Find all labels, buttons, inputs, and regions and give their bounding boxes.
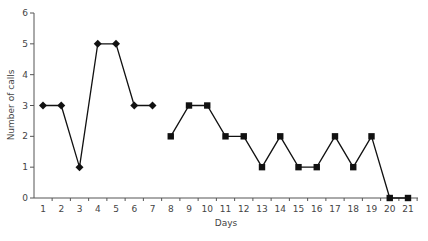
y-axis-title: Number of calls bbox=[6, 69, 16, 140]
x-tick-label: 6 bbox=[131, 204, 137, 214]
x-tick-label: 17 bbox=[329, 204, 340, 214]
line-chart: 0123456 12345678910111213141516171819202… bbox=[0, 0, 428, 241]
square-marker bbox=[168, 133, 174, 139]
x-tick-label: 14 bbox=[275, 204, 287, 214]
x-tick-label: 15 bbox=[293, 204, 304, 214]
square-marker bbox=[186, 102, 192, 108]
y-tick-label: 5 bbox=[22, 39, 28, 49]
y-axis: 0123456 bbox=[22, 8, 34, 203]
diamond-marker bbox=[57, 102, 65, 110]
square-marker bbox=[387, 195, 393, 201]
x-tick-label: 4 bbox=[95, 204, 101, 214]
series-1 bbox=[39, 40, 157, 171]
y-tick-label: 4 bbox=[22, 70, 28, 80]
series-line bbox=[171, 106, 408, 199]
square-marker bbox=[350, 164, 356, 170]
x-tick-label: 9 bbox=[186, 204, 192, 214]
y-tick-label: 3 bbox=[22, 101, 28, 111]
x-axis-title: Days bbox=[215, 218, 238, 228]
square-marker bbox=[332, 133, 338, 139]
square-marker bbox=[295, 164, 301, 170]
x-tick-label: 10 bbox=[202, 204, 214, 214]
x-tick-label: 18 bbox=[348, 204, 360, 214]
x-tick-label: 5 bbox=[113, 204, 119, 214]
square-marker bbox=[314, 164, 320, 170]
x-tick-label: 7 bbox=[150, 204, 156, 214]
x-tick-label: 3 bbox=[77, 204, 83, 214]
x-tick-label: 2 bbox=[58, 204, 64, 214]
square-marker bbox=[259, 164, 265, 170]
x-tick-label: 19 bbox=[366, 204, 378, 214]
x-tick-label: 20 bbox=[384, 204, 396, 214]
series-2 bbox=[168, 102, 412, 201]
x-tick-label: 1 bbox=[40, 204, 46, 214]
square-marker bbox=[277, 133, 283, 139]
diamond-marker bbox=[39, 102, 47, 110]
x-tick-label: 11 bbox=[220, 204, 231, 214]
x-tick-label: 16 bbox=[311, 204, 323, 214]
diamond-marker bbox=[112, 40, 120, 48]
square-marker bbox=[204, 102, 210, 108]
series-layer bbox=[39, 40, 411, 201]
y-tick-label: 6 bbox=[22, 8, 28, 18]
x-tick-label: 8 bbox=[168, 204, 174, 214]
y-tick-label: 0 bbox=[22, 193, 28, 203]
square-marker bbox=[222, 133, 228, 139]
y-tick-label: 1 bbox=[22, 162, 28, 172]
x-axis: 123456789101112131415161718192021 bbox=[34, 198, 418, 214]
diamond-marker bbox=[130, 102, 138, 110]
diamond-marker bbox=[76, 163, 84, 171]
x-tick-label: 12 bbox=[238, 204, 249, 214]
x-tick-label: 13 bbox=[256, 204, 267, 214]
diamond-marker bbox=[94, 40, 102, 48]
square-marker bbox=[241, 133, 247, 139]
x-tick-label: 21 bbox=[402, 204, 413, 214]
square-marker bbox=[368, 133, 374, 139]
y-tick-label: 2 bbox=[22, 131, 28, 141]
diamond-marker bbox=[149, 102, 157, 110]
square-marker bbox=[405, 195, 411, 201]
